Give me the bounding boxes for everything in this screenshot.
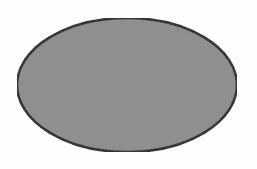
- gray-ellipse-shape: [17, 18, 237, 152]
- diagram-canvas: [0, 0, 257, 169]
- ellipse-svg: [0, 0, 257, 169]
